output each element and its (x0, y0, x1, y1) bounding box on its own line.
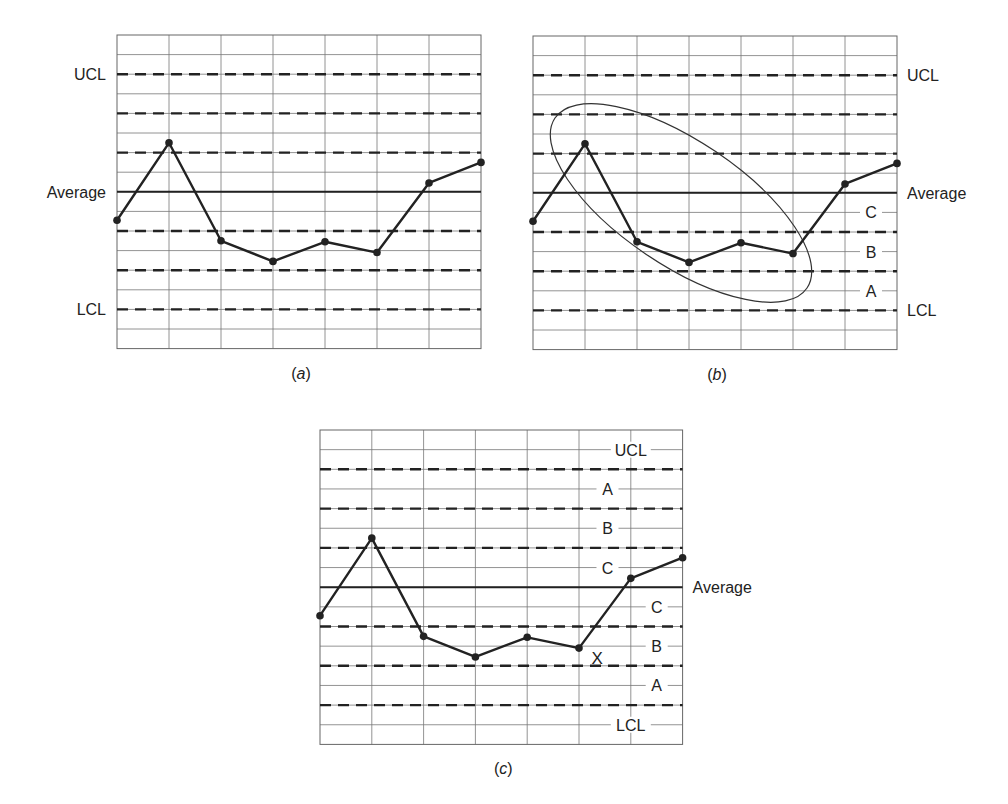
average-label: Average (693, 579, 752, 596)
data-point (737, 239, 745, 247)
ucl-label: UCL (907, 67, 939, 84)
data-point (477, 159, 485, 167)
data-point (316, 612, 324, 620)
average-label: Average (47, 184, 106, 201)
zone-label-b: B (866, 244, 877, 261)
data-point (633, 238, 641, 246)
data-point (523, 634, 531, 642)
zone-label-lcl: LCL (616, 717, 645, 734)
data-point (841, 180, 849, 188)
ucl-label: UCL (74, 66, 106, 83)
data-point (165, 139, 173, 147)
data-point (217, 237, 225, 245)
figure: UCLAverageLCL(a)CBAUCLAverageLCL(b)UCLAB… (0, 0, 1008, 804)
data-point (269, 258, 277, 266)
data-point (893, 160, 901, 168)
lcl-label: LCL (77, 301, 106, 318)
caption-b: (b) (707, 366, 727, 383)
zone-label-b: B (602, 520, 613, 537)
data-point (627, 575, 635, 583)
data-point (581, 140, 589, 148)
zone-labels: CBA (860, 204, 882, 299)
data-point (420, 633, 428, 641)
zone-label-b: B (651, 638, 662, 655)
zone-label-a: A (866, 283, 877, 300)
lcl-label: LCL (907, 302, 936, 319)
out-of-zone-marker: X (591, 649, 602, 668)
zone-label-c: C (602, 560, 614, 577)
data-point (679, 554, 687, 562)
control-limit-labels: UCLAverageLCL (907, 67, 966, 319)
zone-label-ucl: UCL (615, 442, 647, 459)
average-label: Average (907, 185, 966, 202)
control-limit-labels: UCLAverageLCL (47, 66, 106, 318)
control-chart-c: UCLABCCBALCLXAverage(c) (316, 430, 752, 777)
zone-label-c: C (651, 599, 663, 616)
data-point (373, 249, 381, 257)
data-point (425, 179, 433, 187)
data-point (113, 216, 121, 224)
data-point (472, 653, 480, 661)
zone-label-c: C (865, 204, 877, 221)
control-chart-b: CBAUCLAverageLCL(b) (520, 36, 966, 383)
data-point (575, 644, 583, 652)
control-chart-a: UCLAverageLCL(a) (47, 35, 485, 382)
control-chart-figure: UCLAverageLCL(a)CBAUCLAverageLCL(b)UCLAB… (0, 0, 1008, 804)
data-point (789, 250, 797, 258)
control-limit-labels: Average (693, 579, 752, 596)
caption-c: (c) (494, 760, 513, 777)
zone-label-a: A (651, 677, 662, 694)
data-point (529, 217, 537, 225)
data-point (685, 259, 693, 267)
data-point (368, 534, 376, 542)
zone-label-a: A (602, 481, 613, 498)
caption-a: (a) (291, 365, 311, 382)
data-point (321, 238, 329, 246)
